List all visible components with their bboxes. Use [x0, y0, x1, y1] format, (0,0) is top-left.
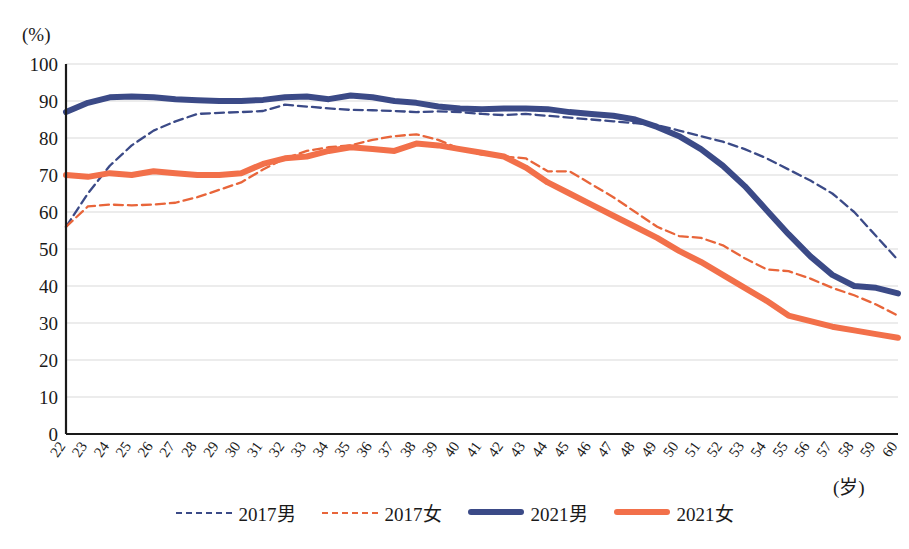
- x-tick-label: 47: [594, 438, 616, 460]
- x-tick-label: 58: [835, 439, 857, 460]
- series-line-3: [66, 144, 898, 338]
- x-tick-label: 49: [638, 439, 660, 460]
- plot-area: 1009080706050403020100 22232425262728293…: [0, 0, 909, 549]
- x-tick-label: 44: [528, 438, 550, 460]
- x-tick-label: 25: [112, 439, 134, 460]
- x-tick-label: 45: [550, 439, 572, 460]
- x-tick-label: 31: [244, 439, 266, 460]
- line-chart-svg: 1009080706050403020100 22232425262728293…: [0, 0, 909, 549]
- y-tick-label: 100: [30, 54, 59, 75]
- x-tick-label: 60: [879, 439, 901, 460]
- x-tick-label: 50: [660, 439, 682, 460]
- x-tick-label: 46: [572, 438, 594, 460]
- y-tick-label: 70: [39, 165, 58, 186]
- y-tick-label: 90: [39, 91, 58, 112]
- x-tick-label: 59: [857, 439, 879, 460]
- x-tick-label: 26: [134, 438, 156, 460]
- x-tick-label: 30: [222, 439, 244, 460]
- legend-item-2017男[interactable]: 2017男: [176, 499, 296, 526]
- x-tick-label: 42: [485, 439, 507, 460]
- x-axis-tick-labels: 2223242526272829303132333435363738394041…: [47, 438, 901, 460]
- x-tick-label: 43: [507, 439, 529, 460]
- legend-item-2021男[interactable]: 2021男: [468, 499, 588, 526]
- y-tick-label: 60: [39, 202, 58, 223]
- x-tick-label: 28: [178, 439, 200, 460]
- x-tick-label: 51: [682, 439, 704, 460]
- legend-label: 2021男: [531, 499, 588, 526]
- gridlines: [66, 64, 898, 434]
- series-line-0: [66, 105, 898, 260]
- x-tick-label: 32: [266, 439, 288, 460]
- x-tick-label: 38: [397, 439, 419, 460]
- x-tick-label: 39: [419, 439, 441, 460]
- legend-label: 2017男: [239, 499, 296, 526]
- x-tick-label: 27: [156, 438, 178, 460]
- x-tick-label: 37: [375, 438, 397, 460]
- x-tick-label: 35: [331, 439, 353, 460]
- y-tick-label: 10: [39, 387, 58, 408]
- y-axis-tick-labels: 1009080706050403020100: [30, 54, 59, 445]
- y-tick-label: 30: [39, 313, 58, 334]
- x-tick-label: 54: [747, 438, 769, 460]
- x-tick-label: 29: [200, 439, 222, 460]
- legend-label: 2021女: [677, 499, 734, 526]
- x-tick-label: 36: [353, 438, 375, 460]
- y-tick-label: 40: [39, 276, 58, 297]
- x-tick-label: 34: [309, 438, 331, 460]
- legend-label: 2017女: [385, 499, 442, 526]
- x-tick-label: 56: [791, 438, 813, 460]
- legend-item-2017女[interactable]: 2017女: [322, 499, 442, 526]
- y-tick-label: 20: [39, 350, 58, 371]
- x-tick-label: 33: [288, 439, 310, 460]
- chart-root: (%) (岁) 1009080706050403020100 222324252…: [0, 0, 909, 549]
- x-tick-label: 40: [441, 439, 463, 460]
- legend-item-2021女[interactable]: 2021女: [614, 499, 734, 526]
- x-tick-label: 41: [463, 439, 485, 460]
- y-tick-label: 80: [39, 128, 58, 149]
- series-line-2: [66, 95, 898, 293]
- chart-legend: 2017男2017女2021男2021女: [0, 492, 909, 532]
- x-tick-label: 57: [813, 438, 835, 460]
- x-tick-label: 23: [69, 439, 91, 460]
- series-layer: [66, 95, 898, 337]
- x-tick-label: 53: [725, 439, 747, 460]
- x-tick-label: 52: [704, 439, 726, 460]
- y-tick-label: 50: [39, 239, 58, 260]
- x-tick-label: 48: [616, 439, 638, 460]
- x-tick-label: 55: [769, 439, 791, 460]
- x-tick-label: 24: [91, 438, 113, 460]
